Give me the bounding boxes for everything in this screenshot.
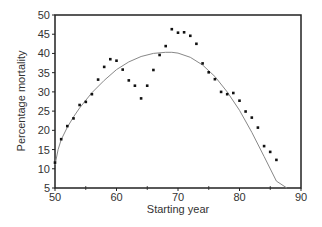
data-point	[121, 68, 124, 71]
data-point	[214, 78, 217, 81]
y-tick-label: 5	[44, 182, 50, 194]
data-point	[78, 104, 81, 107]
y-tick-label: 30	[38, 86, 50, 98]
data-point	[232, 92, 235, 95]
data-points	[54, 28, 278, 164]
data-point	[97, 78, 100, 81]
y-tick-label: 45	[38, 28, 50, 40]
y-tick-label: 20	[38, 124, 50, 136]
data-point	[226, 93, 229, 96]
data-point	[263, 145, 266, 148]
data-point	[201, 62, 204, 65]
data-point	[66, 125, 69, 128]
data-point	[72, 117, 75, 120]
data-point	[183, 31, 186, 34]
scatter-chart: 5060708090 5101520253035404550 Starting …	[0, 0, 322, 227]
data-point	[109, 58, 112, 61]
data-point	[164, 45, 167, 48]
x-tick-label: 60	[110, 191, 122, 203]
y-tick-label: 15	[38, 144, 50, 156]
data-point	[134, 84, 137, 87]
data-point	[146, 84, 149, 87]
data-point	[269, 151, 272, 154]
y-tick-label: 10	[38, 163, 50, 175]
data-point	[171, 28, 174, 31]
data-point	[91, 93, 94, 96]
y-axis-label: Percentage mortality	[15, 50, 27, 151]
data-point	[189, 35, 192, 38]
data-point	[152, 69, 155, 72]
data-point	[244, 110, 247, 113]
data-point	[275, 159, 278, 162]
x-tick-label: 90	[295, 191, 307, 203]
x-tick-label: 70	[172, 191, 184, 203]
plot-frame	[55, 15, 301, 188]
data-point	[140, 97, 143, 100]
y-axis: 5101520253035404550	[38, 9, 55, 194]
fitted-curve	[55, 52, 287, 188]
data-point	[115, 59, 118, 62]
data-point	[238, 99, 241, 102]
data-point	[195, 43, 198, 46]
x-tick-label: 50	[49, 191, 61, 203]
data-point	[158, 54, 161, 57]
data-point	[251, 116, 254, 119]
data-point	[85, 101, 88, 104]
y-tick-label: 25	[38, 105, 50, 117]
data-point	[103, 66, 106, 69]
data-point	[177, 31, 180, 34]
x-axis-label: Starting year	[147, 203, 210, 215]
data-point	[207, 71, 210, 74]
data-point	[257, 126, 260, 129]
data-point	[60, 138, 63, 141]
y-tick-label: 35	[38, 67, 50, 79]
y-tick-label: 40	[38, 47, 50, 59]
data-point	[220, 91, 223, 94]
y-tick-label: 50	[38, 9, 50, 21]
x-tick-label: 80	[233, 191, 245, 203]
data-point	[54, 161, 57, 164]
data-point	[128, 79, 131, 82]
